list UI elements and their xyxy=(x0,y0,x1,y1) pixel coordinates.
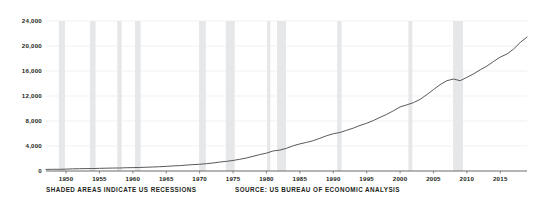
x-axis-tick-label: 1995 xyxy=(359,175,374,182)
x-axis-tick-label: 1990 xyxy=(326,175,341,182)
x-axis-tick-label: 1950 xyxy=(59,175,74,182)
x-axis-tick-labels: 1950195519601965197019751980198519901995… xyxy=(0,0,537,209)
x-axis-tick-label: 1970 xyxy=(192,175,207,182)
x-axis-tick-label: 1965 xyxy=(159,175,174,182)
x-axis-tick-label: 1985 xyxy=(293,175,308,182)
x-axis-tick-label: 1975 xyxy=(226,175,241,182)
gdp-line-chart: BILLIONS OF DOLLARS 04,0008,00012,00016,… xyxy=(0,0,537,209)
recession-note: SHADED AREAS INDICATE US RECESSIONS xyxy=(46,186,196,193)
x-axis-tick-label: 1960 xyxy=(126,175,141,182)
x-axis-tick-label: 2005 xyxy=(426,175,441,182)
x-axis-tick-label: 1980 xyxy=(259,175,274,182)
source-note: SOURCE: US BUREAU OF ECONOMIC ANALYSIS xyxy=(235,186,400,193)
x-axis-tick-label: 2010 xyxy=(460,175,475,182)
x-axis-tick-label: 2015 xyxy=(493,175,508,182)
x-axis-tick-label: 1955 xyxy=(92,175,107,182)
x-axis-tick-label: 2000 xyxy=(393,175,408,182)
